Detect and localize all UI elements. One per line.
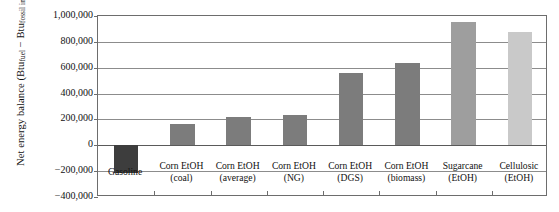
x-category-label: Corn EtOH(DGS) (319, 160, 381, 183)
gridline (98, 119, 546, 120)
x-category-label: Cellulosic(EtOH) (488, 160, 550, 183)
x-category-label: Sugarcane(EtOH) (432, 160, 494, 183)
gridline (98, 68, 546, 69)
x-category-label-line2: (coal) (150, 172, 212, 184)
x-category-label: Corn EtOH(NG) (263, 160, 325, 183)
y-tick-label: −400,000 (9, 191, 93, 201)
y-tick-mark (94, 197, 98, 198)
bar (451, 22, 476, 145)
x-category-label-line1: Gasoline (108, 166, 142, 177)
bar (226, 117, 251, 145)
x-category-label-line1: Corn EtOH (216, 160, 260, 171)
x-category-label-line1: Corn EtOH (384, 160, 428, 171)
bar (283, 115, 308, 145)
bar (395, 63, 420, 146)
x-category-label-line2: (EtOH) (488, 172, 550, 184)
y-tick-label: −200,000 (9, 165, 93, 175)
x-category-label-line1: Corn EtOH (272, 160, 316, 171)
x-category-label-line1: Corn EtOH (159, 160, 203, 171)
x-category-label: Corn EtOH(biomass) (375, 160, 437, 183)
y-tick-mark (94, 94, 98, 95)
x-category-label: Corn EtOH(average) (207, 160, 269, 183)
y-tick-label: 400,000 (9, 88, 93, 98)
x-category-label-line2: (DGS) (319, 172, 381, 184)
x-tick-mark (379, 191, 380, 195)
x-category-label-line2: (NG) (263, 172, 325, 184)
bar (339, 73, 364, 145)
gridline (98, 42, 546, 43)
x-category-label-line2: (EtOH) (432, 172, 494, 184)
x-tick-mark (211, 191, 212, 195)
y-tick-mark (94, 145, 98, 146)
bar (508, 32, 533, 145)
x-tick-mark (492, 191, 493, 195)
y-tick-mark (94, 119, 98, 120)
y-tick-mark (94, 68, 98, 69)
x-category-label-line2: (average) (207, 172, 269, 184)
x-category-label: Corn EtOH(coal) (150, 160, 212, 183)
x-tick-mark (323, 191, 324, 195)
zero-line (98, 145, 546, 146)
y-tick-label: 800,000 (9, 36, 93, 46)
y-tick-mark (94, 42, 98, 43)
net-energy-balance-bar-chart: Net energy balance (Btufuel − Btufossil … (0, 0, 559, 212)
x-category-label-line1: Cellulosic (499, 160, 538, 171)
x-category-label-line1: Sugarcane (443, 160, 483, 171)
gridline (98, 94, 546, 95)
x-tick-mark (154, 191, 155, 195)
y-tick-label: 600,000 (9, 62, 93, 72)
x-tick-mark (267, 191, 268, 195)
y-tick-mark (94, 16, 98, 17)
x-tick-mark (436, 191, 437, 195)
bar (170, 124, 195, 145)
y-tick-label: 0 (9, 139, 93, 149)
y-tick-label: 200,000 (9, 113, 93, 123)
x-category-label: Gasoline (94, 166, 156, 178)
y-tick-label: 1,000,000 (9, 10, 93, 20)
x-category-label-line1: Corn EtOH (328, 160, 372, 171)
x-category-label-line2: (biomass) (375, 172, 437, 184)
